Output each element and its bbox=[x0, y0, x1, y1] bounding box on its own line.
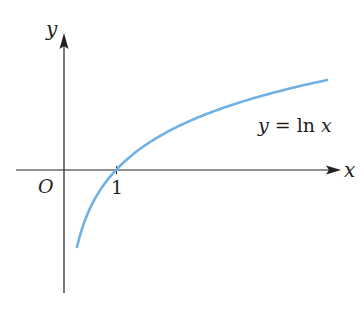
curve-label: y = ln x bbox=[257, 114, 332, 136]
curve-label-x: x bbox=[321, 114, 332, 136]
x-axis-label: x bbox=[344, 158, 355, 182]
y-axis-label: y bbox=[45, 17, 58, 41]
origin-label: O bbox=[38, 175, 54, 197]
ln-curve bbox=[77, 80, 327, 247]
curve-label-y: y bbox=[257, 114, 269, 136]
curve-label-eq: = ln bbox=[269, 114, 321, 136]
ln-graph: y x O 1 y = ln x bbox=[0, 0, 364, 313]
x-tick-label-1: 1 bbox=[111, 176, 123, 198]
